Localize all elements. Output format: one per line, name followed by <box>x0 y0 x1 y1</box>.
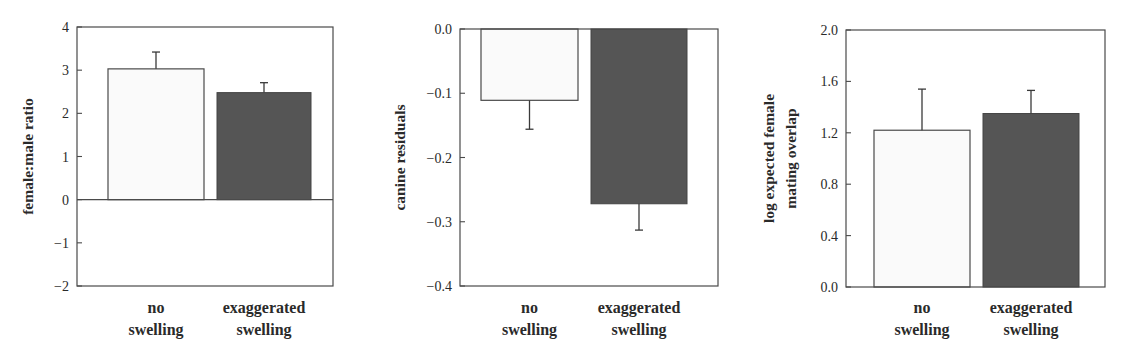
category-label: exaggerated <box>990 299 1073 317</box>
bar-no-swelling <box>874 130 970 287</box>
error-bar-no-swelling <box>918 89 926 130</box>
y-tick-label: 1.2 <box>821 126 839 141</box>
y-axis-label: log expected female <box>760 94 777 223</box>
y-tick-label: 2.0 <box>821 23 839 38</box>
category-label: swelling <box>894 321 949 339</box>
mating-overlap-chart: noswellingexaggeratedswelling2.01.61.20.… <box>0 0 1123 357</box>
y-tick-label: 1.6 <box>821 74 839 89</box>
category-label: no <box>914 299 931 316</box>
y-tick-label: 0.8 <box>821 177 839 192</box>
category-label: swelling <box>1003 321 1058 339</box>
error-bar-exaggerated-swelling <box>1027 90 1035 113</box>
y-axis-label: mating overlap <box>782 108 799 208</box>
y-tick-label: 0.0 <box>821 280 839 295</box>
bar-exaggerated-swelling <box>983 114 1079 287</box>
y-tick-label: 0.4 <box>821 229 839 244</box>
figure-panel: noswellingexaggeratedswelling43210−1−2fe… <box>0 0 1123 357</box>
